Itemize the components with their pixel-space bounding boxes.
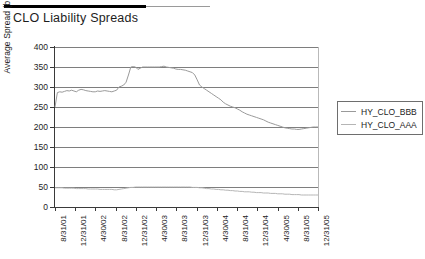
series-line-hy_clo_aaa xyxy=(55,187,318,195)
x-tick-mark xyxy=(176,207,177,211)
x-tick-label: 8/31/03 xyxy=(180,215,189,242)
x-tick-label: 12/31/01 xyxy=(79,215,88,246)
x-axis-line xyxy=(54,207,319,208)
x-tick-mark xyxy=(136,207,137,211)
x-tick-mark xyxy=(257,207,258,211)
x-tick-label: 8/31/01 xyxy=(59,215,68,242)
x-tick-label: 12/31/03 xyxy=(201,215,210,246)
x-tick-mark xyxy=(278,207,279,211)
x-tick-label: 8/31/02 xyxy=(120,215,129,242)
y-tick-label: 350 xyxy=(34,62,48,72)
y-tick-label: 100 xyxy=(34,162,48,172)
y-tick-label: 250 xyxy=(34,102,48,112)
y-tick-label: 150 xyxy=(34,142,48,152)
x-tick-label: 8/31/04 xyxy=(241,215,250,242)
legend-swatch-bbb xyxy=(341,111,356,112)
series-plot-area xyxy=(55,47,318,207)
y-axis-title: Average Spread (bps) xyxy=(2,0,12,91)
x-tick-mark xyxy=(318,207,319,211)
legend-label-aaa: HY_CLO_AAA xyxy=(361,120,417,130)
x-tick-label: 12/31/05 xyxy=(322,215,331,246)
x-tick-label: 4/30/03 xyxy=(160,215,169,242)
header-rule xyxy=(4,5,146,8)
chart-legend: HY_CLO_BBB HY_CLO_AAA xyxy=(337,101,423,135)
y-tick-label: 400 xyxy=(34,42,48,52)
plot-right-border xyxy=(318,47,319,207)
x-tick-mark xyxy=(197,207,198,211)
series-line-hy_clo_bbb xyxy=(55,66,318,129)
legend-swatch-aaa xyxy=(341,124,356,125)
x-tick-label: 8/31/05 xyxy=(302,215,311,242)
page-title: CLO Liability Spreads xyxy=(13,11,138,25)
x-tick-mark xyxy=(217,207,218,211)
legend-item-aaa[interactable]: HY_CLO_AAA xyxy=(341,118,417,131)
y-tick-label: 200 xyxy=(34,122,48,132)
x-tick-mark xyxy=(75,207,76,211)
x-tick-mark xyxy=(55,207,56,211)
x-tick-label: 12/31/02 xyxy=(140,215,149,246)
legend-label-bbb: HY_CLO_BBB xyxy=(361,107,417,117)
x-tick-mark xyxy=(156,207,157,211)
x-tick-label: 4/30/04 xyxy=(221,215,230,242)
x-tick-label: 12/31/04 xyxy=(261,215,270,246)
header-rule-extension xyxy=(146,6,210,7)
y-tick-label: 50 xyxy=(39,182,48,192)
x-tick-mark xyxy=(237,207,238,211)
line-chart: Average Spread (bps) 4003503002502001501… xyxy=(0,33,425,259)
x-tick-mark xyxy=(116,207,117,211)
x-tick-label: 4/30/02 xyxy=(99,215,108,242)
y-tick-label: 0 xyxy=(43,202,48,212)
x-tick-mark xyxy=(95,207,96,211)
chart-page: CLO Liability Spreads Average Spread (bp… xyxy=(0,0,425,259)
x-tick-mark xyxy=(298,207,299,211)
legend-item-bbb[interactable]: HY_CLO_BBB xyxy=(341,105,417,118)
y-tick-label: 300 xyxy=(34,82,48,92)
x-tick-label: 4/30/05 xyxy=(282,215,291,242)
